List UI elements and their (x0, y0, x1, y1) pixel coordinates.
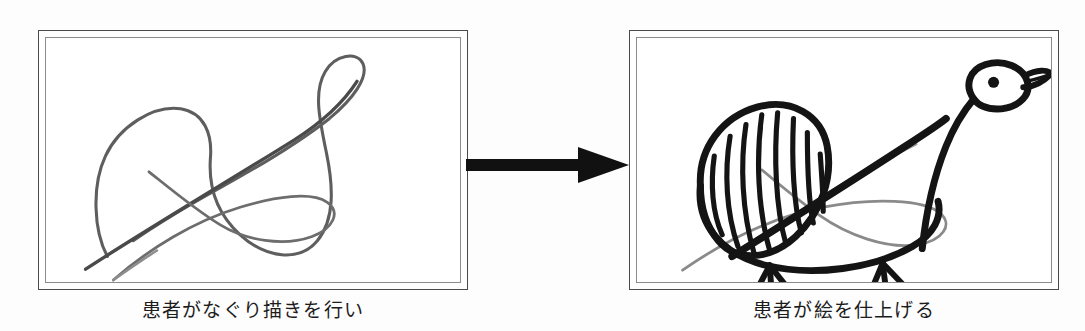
caption-right: 患者が絵を仕上げる (629, 298, 1059, 322)
panel-scribble (38, 30, 468, 290)
figure-root: 患者がなぐり描きを行い (0, 0, 1085, 331)
arrow-right-icon (466, 143, 632, 187)
panel-finished-drawing-inner (636, 37, 1052, 283)
caption-left: 患者がなぐり描きを行い (38, 298, 468, 322)
scribble-drawing (46, 38, 460, 282)
panel-scribble-inner (45, 37, 461, 283)
bird-eye (988, 77, 999, 88)
completed-bird-drawing (637, 38, 1051, 282)
panel-finished-drawing (629, 30, 1059, 290)
process-arrow (466, 143, 632, 187)
